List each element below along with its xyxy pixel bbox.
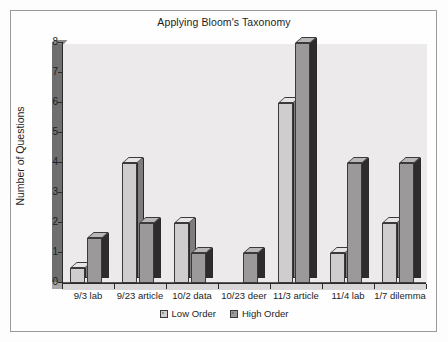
legend-label-high-order: High Order: [242, 308, 288, 319]
bar-side: [206, 248, 213, 278]
bar-side: [154, 218, 161, 278]
bar-high-order-1[interactable]: [139, 223, 154, 283]
x-tick-mark: [218, 284, 219, 289]
chart-page: Applying Bloom's Taxonomy Number of Ques…: [0, 0, 448, 342]
x-axis-label-5: 11/4 lab: [331, 290, 364, 301]
x-tick-mark: [270, 284, 271, 289]
chart-legend: Low Order High Order: [0, 308, 448, 319]
legend-swatch-low-order-icon: [160, 310, 168, 318]
bar-side: [102, 233, 109, 278]
bar-face: [87, 238, 102, 283]
bar-face: [347, 163, 362, 283]
bar-face: [139, 223, 154, 283]
legend-item-high-order[interactable]: High Order: [230, 308, 288, 319]
x-tick-mark: [114, 284, 115, 289]
x-tick-mark: [374, 284, 375, 289]
bar-side: [414, 158, 421, 278]
bar-face: [174, 223, 189, 283]
bar-side: [362, 158, 369, 278]
x-axis-label-3: 10/23 deer: [221, 290, 266, 301]
bar-low-order-5[interactable]: [330, 253, 345, 283]
bar-face: [330, 253, 345, 283]
bar-face: [191, 253, 206, 283]
bar-low-order-1[interactable]: [122, 163, 137, 283]
bar-high-order-2[interactable]: [191, 253, 206, 283]
bar-face: [399, 163, 414, 283]
bar-high-order-4[interactable]: [295, 43, 310, 283]
x-axis-label-2: 10/2 data: [172, 290, 212, 301]
bar-face: [243, 253, 258, 283]
x-axis-label-4: 11/3 article: [273, 290, 319, 301]
y-axis-title: Number of Questions: [14, 76, 26, 236]
bar-face: [278, 103, 293, 283]
bar-high-order-5[interactable]: [347, 163, 362, 283]
bar-face: [295, 43, 310, 283]
bar-low-order-0[interactable]: [70, 268, 85, 283]
bar-low-order-4[interactable]: [278, 103, 293, 283]
legend-label-low-order: Low Order: [172, 308, 216, 319]
x-tick-mark: [322, 284, 323, 289]
x-axis-line: [62, 283, 426, 284]
x-tick-mark: [426, 284, 427, 289]
bar-face: [70, 268, 85, 283]
legend-item-low-order[interactable]: Low Order: [160, 308, 216, 319]
bar-face: [122, 163, 137, 283]
bar-high-order-0[interactable]: [87, 238, 102, 283]
bar-high-order-3[interactable]: [243, 253, 258, 283]
bar-low-order-6[interactable]: [382, 223, 397, 283]
bar-face: [382, 223, 397, 283]
x-axis-label-0: 9/3 lab: [74, 290, 103, 301]
x-axis-label-6: 1/7 dilemma: [374, 290, 426, 301]
bar-high-order-6[interactable]: [399, 163, 414, 283]
bar-series-container: [62, 42, 426, 283]
bar-side: [310, 38, 317, 278]
bar-side: [258, 248, 265, 278]
x-tick-mark: [166, 284, 167, 289]
bar-low-order-2[interactable]: [174, 223, 189, 283]
x-axis-label-1: 9/23 article: [117, 290, 163, 301]
chart-title: Applying Bloom's Taxonomy: [0, 16, 448, 28]
x-tick-mark: [62, 284, 63, 289]
legend-swatch-high-order-icon: [230, 310, 238, 318]
